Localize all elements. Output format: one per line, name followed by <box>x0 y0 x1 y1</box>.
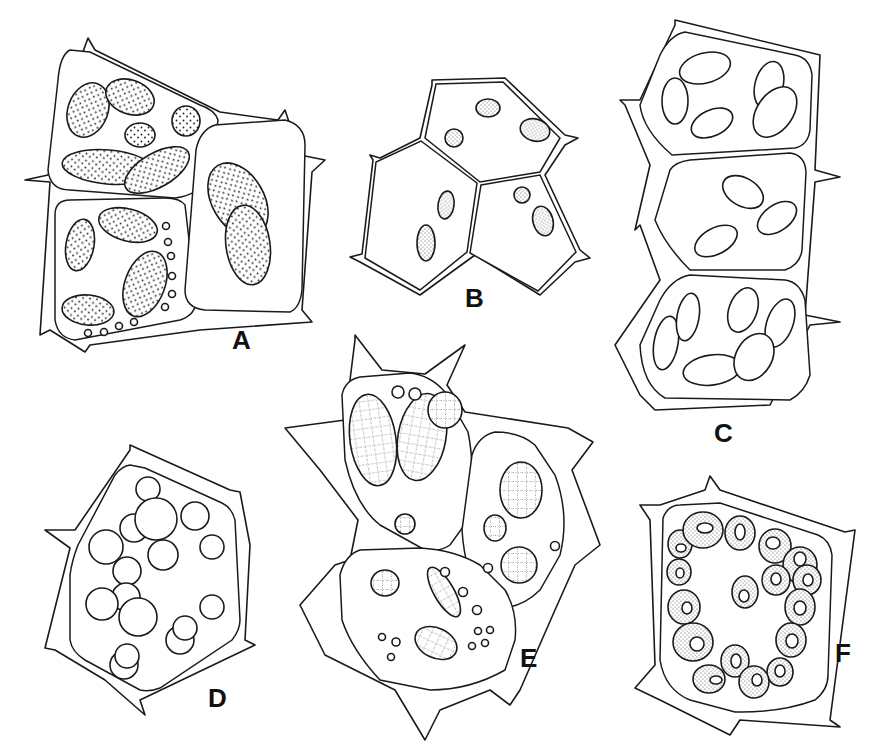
figure-canvas <box>0 0 870 749</box>
panel-label-a: A <box>232 327 251 353</box>
panel-label-b: B <box>465 285 484 311</box>
panel-label-c: C <box>714 420 733 446</box>
panel-b <box>350 78 590 295</box>
panel-c <box>615 20 840 410</box>
panel-d <box>45 445 255 715</box>
panel-f <box>635 476 855 735</box>
panel-e <box>285 335 600 740</box>
panel-a <box>25 38 325 352</box>
panel-label-d: D <box>208 685 227 711</box>
panel-label-f: F <box>835 640 851 666</box>
panel-label-e: E <box>520 645 537 671</box>
